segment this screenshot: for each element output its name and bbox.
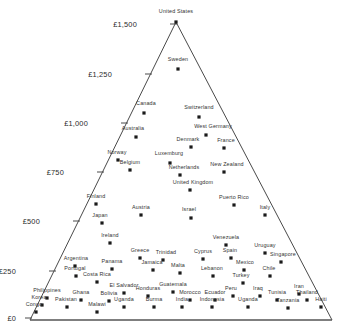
data-point-marker [100, 221, 103, 224]
data-point-marker [73, 264, 76, 267]
data-point-marker [108, 241, 111, 244]
data-point-marker [222, 146, 225, 149]
axis-tick-label: £500 [23, 217, 40, 226]
axis-tick-label: £0 [7, 314, 16, 323]
axis-tick-label: £1,500 [113, 20, 137, 29]
data-point-marker [161, 258, 164, 261]
data-point-marker [107, 299, 110, 302]
chart-canvas [0, 0, 346, 330]
data-point-marker [128, 168, 131, 171]
data-point-marker [213, 298, 216, 301]
data-point-marker [297, 292, 300, 295]
axis-tick-label: £1,000 [64, 119, 88, 128]
data-point-marker [168, 161, 171, 164]
data-point-marker [176, 67, 179, 70]
data-point-marker [263, 213, 266, 216]
data-point-marker [319, 305, 322, 308]
data-point-marker [146, 294, 149, 297]
data-point-marker [34, 310, 37, 313]
data-point-marker [174, 20, 177, 23]
data-point-marker [95, 280, 98, 283]
data-point-marker [139, 213, 142, 216]
data-point-marker [116, 158, 119, 161]
data-point-marker [45, 296, 48, 299]
axis-tick-label: £750 [47, 168, 64, 177]
data-point-marker [210, 305, 213, 308]
triangle-right-edge [176, 22, 332, 320]
triangular-scatter-chart: £1,500£1,250£1,000£750£500£250£0 United … [0, 0, 346, 330]
data-point-marker [275, 298, 278, 301]
data-point-marker [74, 274, 77, 277]
data-point-marker [94, 202, 97, 205]
data-point-marker [286, 306, 289, 309]
data-point-marker [242, 268, 245, 271]
data-point-marker [110, 267, 113, 270]
data-point-marker [188, 188, 191, 191]
axis-tick-label: £1,250 [88, 70, 112, 79]
data-point-marker [122, 305, 125, 308]
data-point-marker [197, 115, 200, 118]
data-point-marker [142, 111, 145, 114]
data-point-marker [95, 310, 98, 313]
data-point-marker [188, 298, 191, 301]
data-point-marker [268, 274, 271, 277]
data-point-marker [204, 133, 207, 136]
axis-tick-label: £250 [0, 267, 16, 276]
data-point-marker [279, 260, 282, 263]
data-point-marker [263, 251, 266, 254]
data-point-marker [305, 298, 308, 301]
data-point-marker [151, 268, 154, 271]
data-point-marker [201, 257, 204, 260]
data-point-marker [134, 135, 137, 138]
data-point-marker [231, 294, 234, 297]
data-point-marker [152, 305, 155, 308]
data-point-marker [229, 256, 232, 259]
data-point-marker [180, 305, 183, 308]
data-point-marker [178, 173, 181, 176]
data-point-marker [189, 145, 192, 148]
data-point-marker [222, 170, 225, 173]
data-point-marker [171, 290, 174, 293]
data-point-marker [246, 305, 249, 308]
data-point-marker [241, 281, 244, 284]
data-point-markers [34, 20, 322, 313]
data-point-marker [189, 216, 192, 219]
data-point-marker [122, 291, 125, 294]
data-point-marker [224, 243, 227, 246]
data-point-marker [65, 305, 68, 308]
data-point-marker [138, 256, 141, 259]
data-point-marker [178, 271, 181, 274]
data-point-marker [232, 203, 235, 206]
data-point-marker [211, 274, 214, 277]
data-point-marker [79, 298, 82, 301]
data-point-marker [40, 303, 43, 306]
data-point-marker [258, 294, 261, 297]
